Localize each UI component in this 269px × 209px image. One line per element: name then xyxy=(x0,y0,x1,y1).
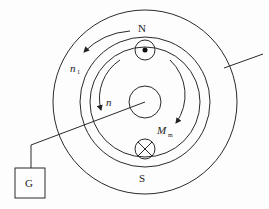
brush-wire xyxy=(224,54,263,68)
current-in-symbol xyxy=(135,139,155,159)
diagram-canvas: N S G n 1 n M m xyxy=(0,0,269,209)
torque-arrow xyxy=(170,60,185,123)
outer-rotation-subscript: 1 xyxy=(77,69,80,75)
torque-label: M xyxy=(156,124,167,136)
galvanometer-label: G xyxy=(25,177,33,189)
inner-rotation-label: n xyxy=(106,96,112,108)
current-out-symbol xyxy=(135,40,155,60)
wire-to-galvanometer xyxy=(31,102,145,168)
diagram-svg: N S G n 1 n M m xyxy=(0,0,269,209)
torque-subscript: m xyxy=(168,132,173,138)
outer-rotation-label: n xyxy=(70,62,76,74)
north-pole-label: N xyxy=(138,22,146,34)
south-pole-label: S xyxy=(139,172,145,184)
